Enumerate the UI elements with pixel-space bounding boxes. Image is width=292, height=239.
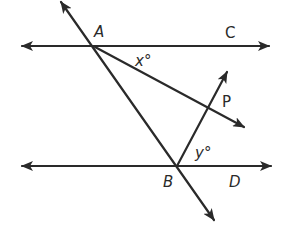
transversal-ab (61, 2, 214, 220)
label-a: A (93, 23, 104, 41)
label-c: C (225, 24, 235, 42)
label-x-angle: x° (134, 52, 151, 70)
label-b: B (163, 173, 173, 191)
ray-a-p (95, 47, 244, 127)
diagram-svg: A C x° P y° B D (0, 0, 292, 239)
label-y-angle: y° (194, 144, 211, 162)
label-p: P (222, 93, 231, 111)
label-d: D (229, 173, 241, 191)
geometry-diagram: A C x° P y° B D (0, 0, 292, 239)
